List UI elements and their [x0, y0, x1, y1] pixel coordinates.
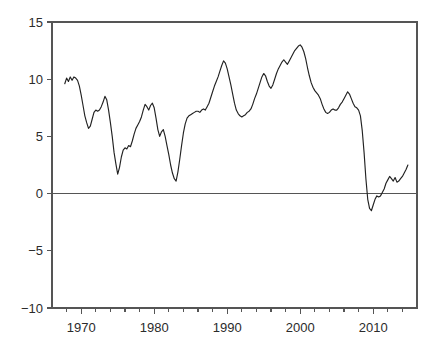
series-line [65, 45, 408, 211]
y-tick-label: 10 [29, 72, 43, 87]
y-tick-label: −10 [21, 301, 43, 316]
y-tick-label: −5 [28, 243, 43, 258]
x-tick-label: 1970 [67, 320, 96, 335]
x-tick-label: 1990 [213, 320, 242, 335]
chart-figure: 151050−5−10 19701980199020002010 [0, 0, 441, 354]
x-axis: 19701980199020002010 [67, 308, 403, 335]
x-tick-label: 2000 [286, 320, 315, 335]
y-tick-label: 5 [36, 129, 43, 144]
y-tick-label: 0 [36, 186, 43, 201]
y-axis: 151050−5−10 [21, 15, 52, 316]
plot-frame [52, 22, 417, 308]
x-tick-label: 1980 [140, 320, 169, 335]
x-tick-label: 2010 [359, 320, 388, 335]
y-tick-label: 15 [29, 15, 43, 30]
line-chart-plot: 151050−5−10 19701980199020002010 [0, 0, 441, 354]
data-series-group [65, 45, 408, 211]
